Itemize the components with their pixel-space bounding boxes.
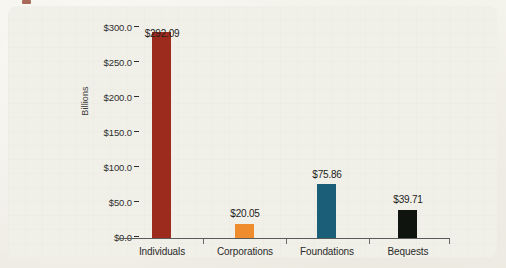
y-tick-dash-150 (134, 131, 139, 132)
y-tick-dash-200 (134, 96, 139, 97)
x-axis-tick-2 (286, 239, 287, 244)
y-tick-label-100: $100.0 (70, 162, 132, 173)
bar-corporations[interactable] (235, 224, 254, 238)
bar-value-individuals: $292.09 (126, 28, 198, 39)
bar-chart: Billions $300.0 $250.0 $200.0 $150.0 $10… (0, 0, 506, 268)
bar-individuals[interactable] (152, 32, 171, 238)
x-axis-label-foundations: Foundations (289, 246, 365, 257)
bar-foundations[interactable] (317, 184, 336, 238)
x-axis-label-corporations: Corporations (207, 246, 283, 257)
bar-bequests[interactable] (398, 210, 417, 238)
x-axis-tick-3 (369, 239, 370, 244)
bar-value-foundations: $75.86 (291, 169, 363, 180)
x-axis-label-individuals: Individuals (126, 246, 198, 257)
x-axis-label-bequests: Bequests (372, 246, 444, 257)
y-tick-label-300: $300.0 (70, 22, 132, 33)
bar-value-bequests: $39.71 (372, 194, 444, 205)
x-axis-tick-1 (203, 239, 204, 244)
y-tick-dash-100 (134, 166, 139, 167)
x-axis-line (118, 238, 450, 239)
y-tick-dash-250 (134, 61, 139, 62)
y-tick-label-250: $250.0 (70, 57, 132, 68)
bar-value-corporations: $20.05 (209, 208, 281, 219)
x-axis-tick-4 (449, 239, 450, 244)
y-tick-dash-50 (134, 201, 139, 202)
y-tick-label-200: $200.0 (70, 92, 132, 103)
y-tick-label-50: $50.0 (70, 197, 132, 208)
y-tick-label-150: $150.0 (70, 127, 132, 138)
